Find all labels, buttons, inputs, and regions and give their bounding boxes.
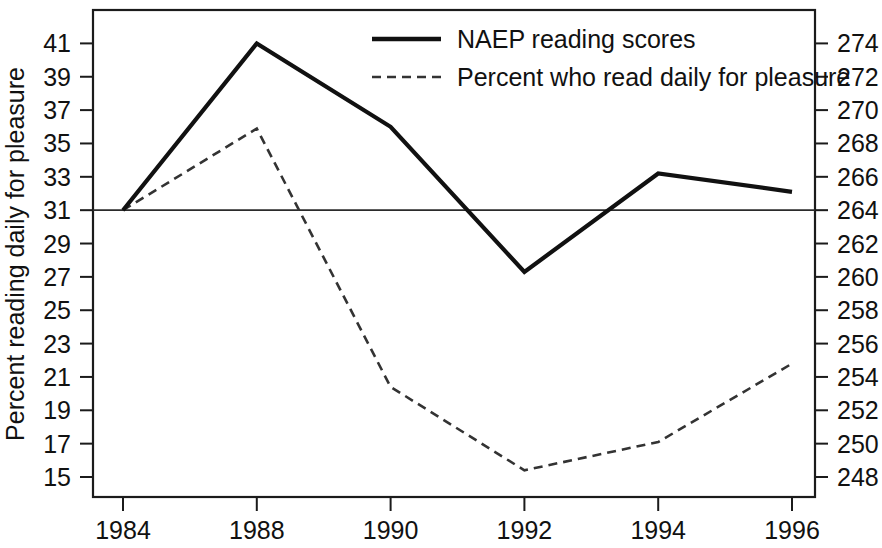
left-tick-label: 25	[43, 296, 71, 324]
left-axis-tick-labels: 1517192123252729313335373941	[43, 29, 71, 491]
left-tick-label: 17	[43, 430, 71, 458]
right-tick-label: 264	[837, 196, 879, 224]
left-tick-label: 15	[43, 463, 71, 491]
right-tick-label: 270	[837, 96, 879, 124]
right-tick-label: 250	[837, 430, 879, 458]
x-tick-label: 1992	[497, 516, 553, 544]
right-tick-label: 260	[837, 263, 879, 291]
legend: NAEP reading scores Percent who read dai…	[372, 25, 850, 91]
legend-item-percent-who-read-daily: Percent who read daily for pleasure	[372, 63, 850, 91]
right-tick-label: 258	[837, 296, 879, 324]
y-axis-title: Percent reading daily for pleasure	[1, 67, 29, 441]
right-tick-label: 248	[837, 463, 879, 491]
right-axis-ticks	[815, 43, 828, 477]
left-tick-label: 31	[43, 196, 71, 224]
left-tick-label: 37	[43, 96, 71, 124]
left-tick-label: 21	[43, 363, 71, 391]
x-tick-label: 1996	[764, 516, 820, 544]
x-tick-label: 1990	[363, 516, 419, 544]
right-tick-label: 262	[837, 230, 879, 258]
x-axis-ticks	[123, 497, 792, 511]
left-axis-ticks	[80, 43, 93, 477]
right-tick-label: 268	[837, 129, 879, 157]
x-axis-tick-labels: 198419881990199219941996	[95, 516, 820, 544]
right-axis-tick-labels: 2482502522542562582602622642662682702722…	[837, 29, 879, 491]
right-tick-label: 274	[837, 29, 879, 57]
x-tick-label: 1994	[630, 516, 686, 544]
left-tick-label: 19	[43, 396, 71, 424]
x-tick-label: 1984	[95, 516, 151, 544]
legend-label-naep-reading-scores: NAEP reading scores	[457, 25, 696, 53]
right-tick-label: 266	[837, 163, 879, 191]
right-tick-label: 256	[837, 330, 879, 358]
left-tick-label: 41	[43, 29, 71, 57]
left-tick-label: 35	[43, 129, 71, 157]
x-tick-label: 1988	[229, 516, 285, 544]
right-tick-label: 254	[837, 363, 879, 391]
right-tick-label: 252	[837, 396, 879, 424]
legend-label-percent-who-read-daily: Percent who read daily for pleasure	[457, 63, 850, 91]
left-tick-label: 39	[43, 63, 71, 91]
left-tick-label: 33	[43, 163, 71, 191]
legend-item-naep-reading-scores: NAEP reading scores	[372, 25, 696, 53]
line-chart: 1517192123252729313335373941 24825025225…	[0, 0, 882, 548]
chart-figure: 1517192123252729313335373941 24825025225…	[0, 0, 882, 548]
left-tick-label: 29	[43, 230, 71, 258]
left-tick-label: 27	[43, 263, 71, 291]
left-tick-label: 23	[43, 330, 71, 358]
